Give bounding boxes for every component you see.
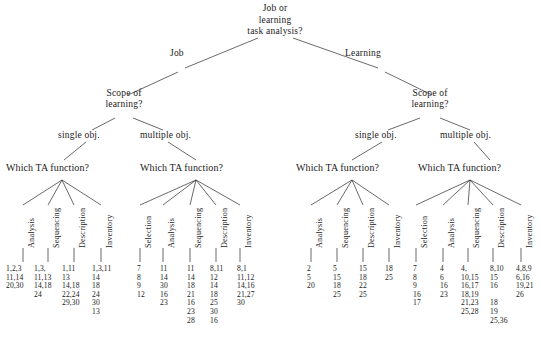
- fn-label-group-3-analysis: Analysis: [315, 218, 324, 248]
- value-item: 12: [137, 291, 145, 300]
- decision-tree-diagram: Job or learning task analysis? Job Learn…: [0, 0, 541, 343]
- value-item: 16: [490, 282, 508, 291]
- values-group-1-sequencing: 1,3, 11,13 14,18 24: [34, 265, 52, 299]
- scope-node-learning-line-2: learning?: [398, 99, 462, 110]
- ta-question-group-2: Which TA function?: [140, 162, 223, 173]
- values-group-2-description: 8,11 12 14 18 25 30 16: [210, 265, 223, 325]
- fn-label-group-1-description: Description: [78, 208, 87, 248]
- scope-branch-learning-multiple: multiple obj.: [440, 130, 491, 141]
- scope-node-job-line-1: Scope of: [92, 88, 156, 99]
- fn-label-group-3-inventory: Inventory: [393, 214, 402, 248]
- fn-label-group-4-selection: Selection: [420, 216, 429, 248]
- fn-label-group-4-description: Description: [497, 208, 506, 248]
- value-item: 26: [516, 291, 534, 300]
- fn-label-group-2-sequencing: Sequencing: [194, 208, 203, 248]
- fn-label-group-3-sequencing: Sequencing: [341, 208, 350, 248]
- ta-question-group-3: Which TA function?: [296, 162, 379, 173]
- values-group-4-selection: 7 8 9 16 17: [413, 265, 421, 308]
- fn-label-group-2-selection: Selection: [144, 216, 153, 248]
- values-group-2-inventory: 8,1 11,12 14,16 21,27 30: [237, 265, 255, 308]
- value-item: 20: [307, 282, 315, 291]
- value-item: 25: [385, 274, 393, 283]
- values-group-4-inventory: 4,8,9 6,16 19,21 26: [516, 265, 534, 299]
- values-group-4-analysis: 4 6 16 23: [440, 265, 448, 299]
- ta-question-group-1: Which TA function?: [6, 162, 89, 173]
- value-item: 23: [160, 299, 168, 308]
- value-item: 25,36: [490, 317, 508, 326]
- scope-node-learning-line-1: Scope of: [398, 88, 462, 99]
- root-line-1: Job or: [232, 3, 318, 15]
- root-line-2: learning: [232, 15, 318, 27]
- fn-label-group-4-sequencing: Sequencing: [472, 208, 481, 248]
- value-item: 16: [210, 317, 223, 326]
- value-item: 25: [359, 291, 367, 300]
- fn-label-group-1-inventory: Inventory: [105, 214, 114, 248]
- value-item: 17: [413, 299, 421, 308]
- fn-label-group-3-description: Description: [367, 208, 376, 248]
- value-item: 20,30: [6, 282, 24, 291]
- ta-question-group-4: Which TA function?: [418, 162, 501, 173]
- values-group-4-sequencing: 4, 10,15 16,17 18,19 21,23 25,28: [461, 265, 479, 317]
- fn-label-group-4-inventory: Inventory: [525, 214, 534, 248]
- value-item: 24: [34, 291, 52, 300]
- root-node: Job or learning task analysis?: [232, 3, 318, 38]
- scope-node-job: Scope of learning?: [92, 88, 156, 110]
- value-item: 29,30: [62, 299, 80, 308]
- values-group-2-analysis: 11 14 30 16 23: [160, 265, 168, 308]
- values-group-2-sequencing: 11 14 18 21 16 23 28: [187, 265, 195, 325]
- fn-label-group-2-inventory: Inventory: [244, 214, 253, 248]
- values-group-3-sequencing: 5 15 18 25: [333, 265, 341, 299]
- fn-label-group-1-sequencing: Sequencing: [52, 208, 61, 248]
- values-group-1-analysis: 1,2,3 11,14 20,30: [6, 265, 24, 291]
- value-item: 23: [440, 291, 448, 300]
- scope-branch-job-multiple: multiple obj.: [140, 130, 191, 141]
- fn-label-group-4-analysis: Analysis: [447, 218, 456, 248]
- values-group-1-description: 1,11 13 14,18 22,24 29,30: [62, 265, 80, 308]
- value-item: 25,28: [461, 308, 479, 317]
- value-item: 30: [237, 299, 255, 308]
- scope-node-learning: Scope of learning?: [398, 88, 462, 110]
- values-group-2-selection: 7 8 9 12: [137, 265, 145, 299]
- branch-label-learning: Learning: [345, 48, 381, 59]
- values-group-3-inventory: 18 25: [385, 265, 393, 282]
- fn-label-group-2-analysis: Analysis: [167, 218, 176, 248]
- value-item: 25: [333, 291, 341, 300]
- value-item: 28: [187, 317, 195, 326]
- value-item: 13: [92, 308, 111, 317]
- fn-label-group-2-description: Description: [220, 208, 229, 248]
- root-line-3: task analysis?: [232, 26, 318, 38]
- values-group-3-description: 15 18 22 25: [359, 265, 367, 299]
- scope-branch-job-single: single obj.: [58, 130, 100, 141]
- values-group-3-analysis: 2 5 20: [307, 265, 315, 291]
- scope-branch-learning-single: single obj.: [355, 130, 397, 141]
- fn-label-group-1-analysis: Analysis: [27, 218, 36, 248]
- scope-node-job-line-2: learning?: [92, 99, 156, 110]
- branch-label-job: Job: [170, 48, 184, 59]
- values-group-1-inventory: 1,3,11 14 18 24 30 13: [92, 265, 111, 317]
- values-group-4-description: 8,10 15 16 18 19 25,36: [490, 265, 508, 325]
